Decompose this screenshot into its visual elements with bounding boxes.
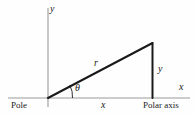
hypotenuse-line xyxy=(48,43,153,98)
adjacent-leg-label: x xyxy=(101,100,105,110)
horizontal-axis-label: x xyxy=(179,82,183,92)
hypotenuse-label: r xyxy=(94,58,98,68)
polar-triangle-figure: y x r y x θ Pole Polar axis xyxy=(0,0,194,115)
angle-theta-label: θ xyxy=(75,83,80,93)
pole-label: Pole xyxy=(11,101,27,110)
vertical-axis-label: y xyxy=(50,4,54,14)
opposite-leg-label: y xyxy=(158,64,162,74)
polar-axis-label: Polar axis xyxy=(143,101,179,110)
